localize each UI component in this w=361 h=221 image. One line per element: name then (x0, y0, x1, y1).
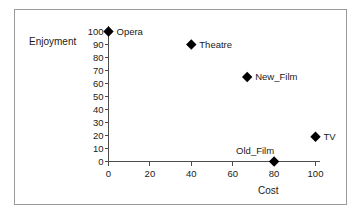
x-tick-label: 100 (303, 169, 329, 179)
data-point-marker[interactable] (103, 26, 113, 36)
data-point-marker[interactable] (310, 132, 320, 142)
y-tick-label: 20 (82, 131, 104, 141)
y-tick-label: 60 (82, 79, 104, 89)
point-label: Old_Film (236, 146, 274, 156)
point-label: TV (324, 132, 336, 142)
x-axis-title: Cost (258, 186, 279, 196)
x-tick-label: 80 (261, 169, 287, 179)
x-tick-label: 40 (178, 169, 204, 179)
x-tick-label: 0 (96, 169, 122, 179)
point-label: Opera (117, 27, 143, 37)
data-point-marker[interactable] (242, 72, 252, 82)
y-tick-label: 100 (82, 27, 104, 37)
y-tick-label: 90 (82, 40, 104, 50)
y-tick-label: 40 (82, 105, 104, 115)
data-point-marker[interactable] (269, 156, 279, 166)
point-label: Theatre (199, 40, 232, 50)
y-tick-label: 70 (82, 66, 104, 76)
scatter-plot-figure: Enjoyment Cost 0102030405060708090100 02… (0, 0, 361, 221)
y-tick-label: 0 (82, 157, 104, 167)
y-tick-label: 80 (82, 53, 104, 63)
y-tick-label: 30 (82, 118, 104, 128)
point-label: New_Film (255, 72, 297, 82)
data-point-marker[interactable] (186, 39, 196, 49)
y-tick-label: 10 (82, 144, 104, 154)
y-axis-title: Enjoyment (29, 37, 76, 47)
x-tick-label: 20 (137, 169, 163, 179)
x-tick-label: 60 (220, 169, 246, 179)
y-tick-label: 50 (82, 92, 104, 102)
chart-canvas (0, 0, 361, 221)
